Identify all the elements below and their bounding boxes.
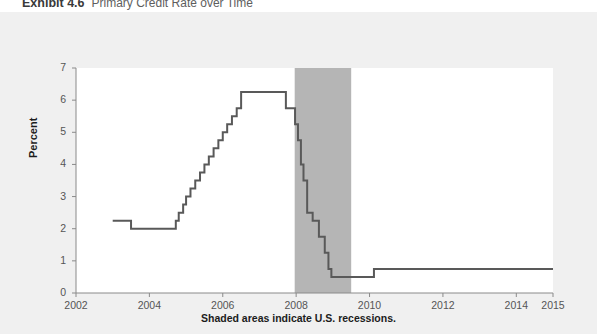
y-tick-label-6: 6 xyxy=(46,93,66,105)
y-tick-label-3: 3 xyxy=(46,190,66,202)
x-tick-label-2006: 2006 xyxy=(203,299,243,311)
x-tick-label-2008: 2008 xyxy=(276,299,316,311)
x-tick-label-2010: 2010 xyxy=(350,299,390,311)
y-tick-label-5: 5 xyxy=(46,125,66,137)
x-tick-label-2012: 2012 xyxy=(423,299,463,311)
y-tick-label-7: 7 xyxy=(46,61,66,73)
y-axis-title: Percent xyxy=(27,118,39,158)
x-tick-label-2004: 2004 xyxy=(129,299,169,311)
primary-credit-rate-chart xyxy=(0,0,597,334)
x-tick-label-2015: 2015 xyxy=(533,299,573,311)
exhibit-figure: Exhibit 4.6Primary Credit Rate over Time… xyxy=(0,0,597,334)
x-tick-label-2014: 2014 xyxy=(496,299,536,311)
y-tick-label-2: 2 xyxy=(46,222,66,234)
y-tick-label-1: 1 xyxy=(46,254,66,266)
y-tick-label-0: 0 xyxy=(46,286,66,298)
x-tick-label-2002: 2002 xyxy=(56,299,96,311)
chart-annotation-note: Shaded areas indicate U.S. recessions. xyxy=(0,312,597,324)
y-tick-label-4: 4 xyxy=(46,157,66,169)
